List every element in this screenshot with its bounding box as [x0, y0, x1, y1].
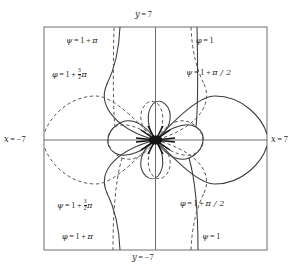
- curve-label-bl-outer: φ=1+π: [62, 232, 93, 241]
- psi-symbol: ψ: [66, 35, 73, 45]
- curve-label-br-outer: ψ=1: [202, 232, 220, 241]
- psi-symbol: ψ: [186, 67, 193, 77]
- curve-label-tr-outer: φ=1: [196, 36, 214, 45]
- axis-label-right: x=7: [271, 135, 288, 144]
- phi-symbol: φ: [180, 198, 186, 208]
- phi-symbol: φ: [196, 35, 202, 45]
- curve-label-bl-inner: ψ=1+32π: [57, 199, 93, 211]
- axis-label-bottom: y=−7: [132, 253, 154, 262]
- phi-symbol: φ: [52, 69, 58, 79]
- flow-net-plot: [0, 0, 298, 274]
- phi-symbol: φ: [62, 231, 68, 241]
- curve-label-mr-inner: ψ=1+π / 2: [186, 68, 231, 77]
- curve-label-tl-outer: ψ=1+π: [66, 36, 98, 45]
- curve-label-ml-inner: φ=1+32π: [52, 68, 87, 80]
- psi-symbol: ψ: [202, 231, 209, 241]
- curve-label-br-inner: φ=1+π / 2: [180, 199, 225, 208]
- psi-symbol: ψ: [57, 200, 64, 210]
- figure-container: y=7 y=−7 x=−7 x=7 ψ=1+π φ=1 φ=1+32π ψ=1+…: [0, 0, 298, 274]
- axis-label-left: x=−7: [4, 135, 26, 144]
- axis-label-top: y=7: [135, 10, 152, 19]
